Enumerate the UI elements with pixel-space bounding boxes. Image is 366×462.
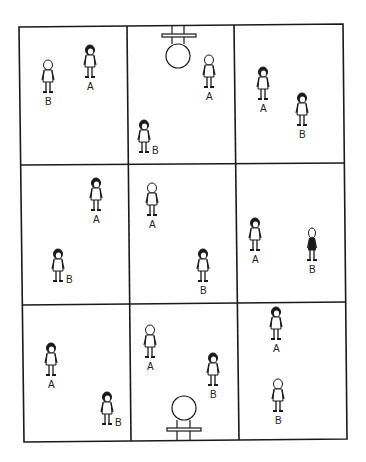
player-label-b: B <box>309 265 316 275</box>
player-figure-b-icon <box>42 60 54 92</box>
player-figure-a-icon <box>45 343 57 375</box>
player-label-b: B <box>152 146 159 156</box>
player-label-b: B <box>275 416 282 426</box>
player-figure-a-icon <box>146 183 158 215</box>
player-figure-b-icon <box>296 93 308 125</box>
grid-col-divider-1 <box>127 26 131 441</box>
grid-lines <box>19 24 347 442</box>
player-figure-a-icon <box>249 218 261 250</box>
player-figure-a-icon <box>203 55 215 87</box>
player-figure-a-icon <box>84 45 96 77</box>
player-figure-a-icon <box>270 307 282 339</box>
player-figure-a-icon <box>257 67 269 99</box>
grid-row-divider-1 <box>21 163 345 165</box>
basketball-hoop-top-icon <box>162 25 196 68</box>
grid-col-divider-2 <box>234 25 239 440</box>
player-label-a: A <box>206 92 213 102</box>
grid-outer-border <box>19 24 347 442</box>
positioning-diagram: BAABABABABABABABAB <box>0 0 366 462</box>
player-figure-b-icon <box>101 392 113 424</box>
player-figure-b-icon <box>207 353 219 385</box>
players-layer <box>42 45 317 424</box>
player-figure-b-icon <box>197 249 209 281</box>
grid-svg <box>0 0 366 462</box>
player-label-b: B <box>66 275 73 285</box>
player-label-a: A <box>252 255 259 265</box>
player-label-a: A <box>149 220 156 230</box>
player-label-a: A <box>48 380 55 390</box>
player-label-a: A <box>87 82 94 92</box>
player-label-b: B <box>299 130 306 140</box>
player-label-b: B <box>45 97 52 107</box>
player-label-a: A <box>273 344 280 354</box>
player-figure-b-icon <box>272 379 284 411</box>
player-label-a: A <box>93 215 100 225</box>
player-figure-a-icon <box>144 325 156 357</box>
player-figure-a-icon <box>90 178 102 210</box>
player-label-a: A <box>260 104 267 114</box>
player-figure-b-icon <box>52 249 64 281</box>
player-label-b: B <box>210 390 217 400</box>
basketball-hoop-bottom-icon <box>167 396 201 440</box>
player-label-a: A <box>147 362 154 372</box>
player-figure-b-icon <box>307 228 317 260</box>
player-figure-b-icon <box>138 120 150 152</box>
player-label-b: B <box>115 418 122 428</box>
grid-row-divider-2 <box>22 302 346 305</box>
player-label-b: B <box>200 286 207 296</box>
